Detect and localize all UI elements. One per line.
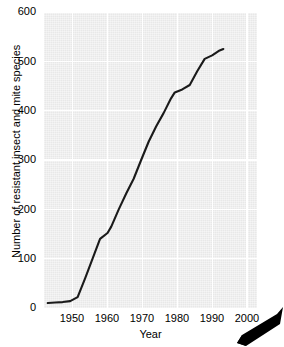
x-axis-title: Year	[44, 328, 257, 340]
y-tick-label-0: 0	[2, 302, 36, 313]
x-tick-label-1970: 1970	[122, 313, 162, 324]
y-axis-title: Number of resistant insect and mite spec…	[10, 58, 22, 258]
x-tick-label-1950: 1950	[52, 313, 92, 324]
data-line-resistant-species	[48, 49, 224, 303]
y-tick-label-600: 600	[2, 6, 36, 17]
x-tick-label-1980: 1980	[157, 313, 197, 324]
arrow-pointer-icon	[236, 305, 284, 347]
grid-lines	[44, 12, 257, 308]
x-tick-label-1960: 1960	[87, 313, 127, 324]
arrow-pointer-shape	[237, 307, 283, 346]
x-tick-label-1990: 1990	[192, 313, 232, 324]
